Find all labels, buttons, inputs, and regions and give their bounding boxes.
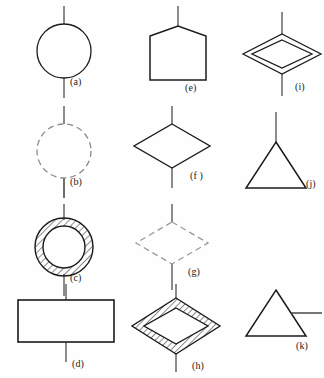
diamond-outline [134, 124, 210, 168]
symbol-label-b: (b) [70, 176, 82, 187]
symbol-label-h: (h) [192, 360, 204, 371]
symbol-label-e: (e) [185, 82, 196, 93]
symbol-label-j: (j) [306, 178, 316, 189]
symbol-a: (a) [14, 4, 114, 100]
symbol-b: (b) [14, 104, 114, 200]
symbol-k: (k) [240, 284, 324, 376]
symbol-label-f: (f ) [190, 170, 203, 181]
circle-outline-dashed [37, 124, 91, 178]
symbol-plate: (a) (b) [0, 0, 324, 378]
pentagon-outline [150, 26, 206, 80]
symbol-e: (e) [128, 4, 228, 100]
symbol-label-k: (k) [296, 340, 308, 351]
triangle-outline [246, 142, 306, 188]
symbol-label-g: (g) [188, 266, 200, 277]
symbol-label-i: (i) [295, 81, 305, 92]
symbol-label-a: (a) [70, 76, 81, 87]
symbol-label-c: (c) [70, 272, 81, 283]
diamond-ring-hatch-fill [128, 284, 236, 376]
symbol-j: (j) [240, 104, 324, 204]
symbol-h: (h) [128, 284, 236, 376]
symbol-i: (i) [240, 4, 324, 104]
circle-outline [37, 24, 91, 78]
diamond-outline-dashed [136, 222, 208, 264]
symbol-d: (d) [14, 284, 124, 376]
symbol-label-d: (d) [72, 358, 84, 369]
rectangle-outline [18, 300, 114, 342]
symbol-f: (f ) [128, 104, 228, 196]
